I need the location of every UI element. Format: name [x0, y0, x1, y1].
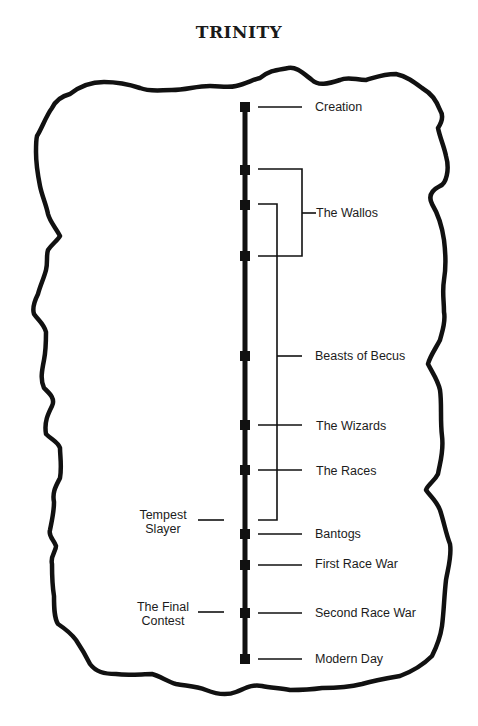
event-label-tempest-slayer-line2: Slayer [133, 522, 193, 536]
event-label-the-final-contest-line2: Contest [130, 614, 196, 628]
event-label-creation: Creation [315, 100, 362, 114]
left-connectors [198, 520, 224, 612]
event-label-beasts-of-becus: Beasts of Becus [315, 349, 405, 363]
event-label-the-wizards: The Wizards [316, 419, 386, 433]
event-label-second-race-war: Second Race War [315, 606, 416, 620]
event-label-tempest-slayer: Tempest Slayer [133, 508, 193, 536]
parchment-border [33, 68, 450, 694]
event-label-the-final-contest-line1: The Final [130, 600, 196, 614]
event-label-bantogs: Bantogs [315, 527, 361, 541]
event-label-modern-day: Modern Day [315, 652, 383, 666]
event-label-the-wallos: The Wallos [316, 206, 378, 220]
event-label-the-races: The Races [316, 464, 376, 478]
event-label-the-final-contest: The Final Contest [130, 600, 196, 628]
event-label-first-race-war: First Race War [315, 557, 398, 571]
right-connectors [258, 107, 316, 659]
event-label-tempest-slayer-line1: Tempest [133, 508, 193, 522]
